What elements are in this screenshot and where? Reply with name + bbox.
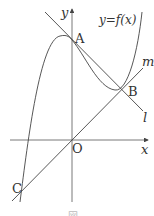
y-axis-label: y [60, 5, 69, 20]
curve-label: y=f(x) [98, 13, 137, 27]
function-graph-diagram: y x O y=f(x) A B C m l 図 [0, 0, 154, 216]
point-a-label: A [74, 31, 85, 46]
point-c-label: C [12, 181, 22, 196]
line-m [12, 68, 143, 201]
point-b-label: B [128, 84, 138, 99]
figure-caption: 図 [68, 211, 78, 216]
x-axis-label: x [141, 142, 149, 157]
origin-label: O [72, 141, 83, 156]
line-m-label: m [142, 54, 154, 69]
line-l-label: l [143, 110, 147, 125]
